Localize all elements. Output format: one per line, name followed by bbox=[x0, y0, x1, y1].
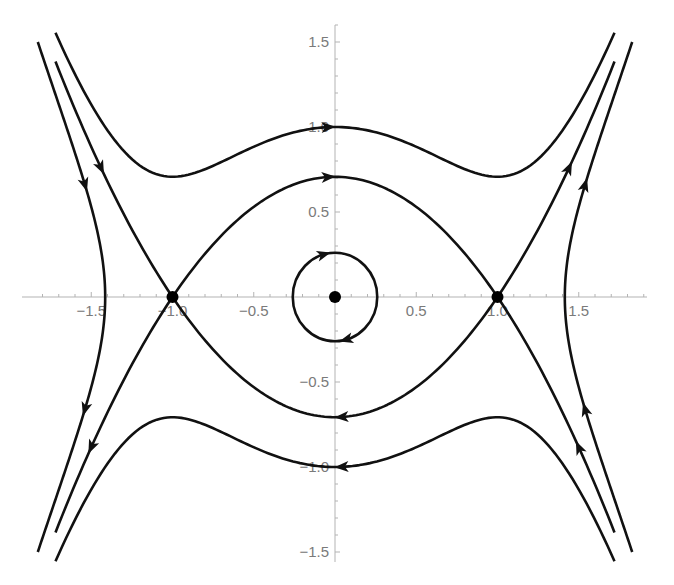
y-tick-label: 1.5 bbox=[308, 33, 329, 50]
x-tick-label: −1.5 bbox=[76, 302, 106, 319]
equilibrium-saddle bbox=[492, 291, 504, 303]
x-tick-label: 1.0 bbox=[487, 302, 508, 319]
equilibrium-saddle bbox=[167, 291, 179, 303]
x-tick-label: 1.5 bbox=[568, 302, 589, 319]
y-tick-label: −1.5 bbox=[299, 543, 329, 560]
equilibrium-center bbox=[329, 291, 341, 303]
x-tick-labels: −1.5−1.0−0.50.51.01.5 bbox=[76, 302, 589, 319]
y-ticks bbox=[335, 25, 340, 552]
x-ticks bbox=[43, 292, 644, 297]
y-tick-label: 0.5 bbox=[308, 203, 329, 220]
phase-portrait-plot: −1.5−1.0−0.50.51.01.5 1.51.00.5−0.5−1.0−… bbox=[0, 0, 674, 585]
y-tick-label: −0.5 bbox=[299, 373, 329, 390]
x-tick-label: −0.5 bbox=[239, 302, 269, 319]
x-tick-label: 0.5 bbox=[406, 302, 427, 319]
